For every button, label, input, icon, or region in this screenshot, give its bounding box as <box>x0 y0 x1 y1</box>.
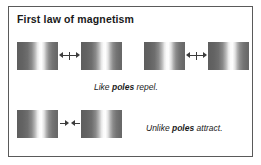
magnet-bar <box>208 42 249 70</box>
repel-arrow-left-pair <box>59 52 81 61</box>
caption-trail-text: attract. <box>194 123 222 133</box>
arrow-center-tick-icon <box>196 52 197 60</box>
caption-emphasis-text: poles <box>112 82 134 92</box>
caption-like-poles-repel: Like poles repel. <box>94 82 158 92</box>
magnet-bar <box>17 110 58 138</box>
arrow-head-right-icon <box>76 52 80 58</box>
caption-unlike-poles-attract: Unlike poles attract. <box>146 123 223 133</box>
magnet-bar <box>17 42 58 70</box>
arrow-head-right-icon <box>65 120 69 126</box>
arrow-head-right-icon <box>203 52 207 58</box>
attract-arrow-pair <box>59 120 81 129</box>
magnetism-figure: First law of magnetism Like poles repel.… <box>0 0 261 165</box>
caption-lead-text: Like <box>94 82 112 92</box>
page-title: First law of magnetism <box>17 13 134 25</box>
magnet-bar <box>81 42 122 70</box>
caption-emphasis-text: poles <box>172 123 194 133</box>
magnet-bar <box>144 42 185 70</box>
arrow-shaft <box>74 123 80 124</box>
repel-arrow-right-pair <box>186 52 208 61</box>
magnet-bar <box>81 110 122 138</box>
arrow-center-tick-icon <box>69 52 70 60</box>
caption-trail-text: repel. <box>134 82 158 92</box>
caption-lead-text: Unlike <box>146 123 172 133</box>
